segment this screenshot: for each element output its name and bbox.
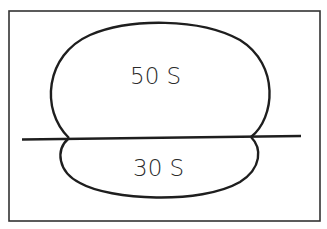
small-subunit-label: 30 S [133,155,184,181]
large-subunit-label: 50 S [130,63,181,89]
mrna-line [22,136,301,140]
ribosome-diagram: 50 S 30 S [0,0,327,229]
